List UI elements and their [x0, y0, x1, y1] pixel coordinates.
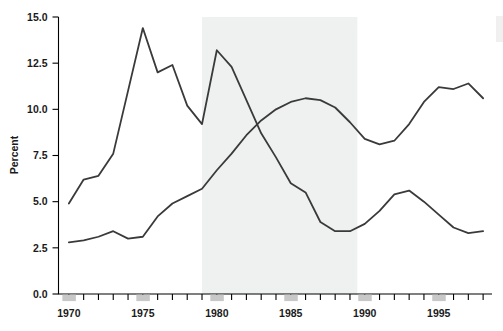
- x-tick-label: 1995: [427, 307, 451, 319]
- right-edge-artifact: [496, 16, 503, 42]
- y-tick-label: 7.5: [33, 149, 48, 161]
- chart-container: 0.02.55.07.510.012.515.0 197019751980198…: [0, 0, 503, 331]
- x-tick-label: 1975: [131, 307, 155, 319]
- y-tick-label: 15.0: [27, 11, 48, 23]
- y-axis-title: Percent: [8, 135, 20, 174]
- x-tick-label: 1970: [57, 307, 81, 319]
- y-tick-label: 10.0: [27, 103, 48, 115]
- x-tick-label: 1990: [353, 307, 377, 319]
- y-tick-label: 2.5: [33, 242, 48, 254]
- x-tick-label: 1985: [279, 307, 303, 319]
- y-tick-label: 12.5: [27, 57, 48, 69]
- x-axis-year-block: [62, 295, 76, 302]
- x-axis-year-block: [136, 295, 150, 302]
- x-axis-year-block: [284, 295, 298, 302]
- y-tick-label: 5.0: [33, 195, 48, 207]
- x-tick-label: 1980: [205, 307, 229, 319]
- x-axis-year-block: [210, 295, 224, 302]
- x-axis-year-block: [358, 295, 372, 302]
- x-axis-year-block: [432, 295, 446, 302]
- y-tick-label: 0.0: [33, 288, 48, 300]
- line-chart: 0.02.55.07.510.012.515.0 197019751980198…: [0, 0, 503, 331]
